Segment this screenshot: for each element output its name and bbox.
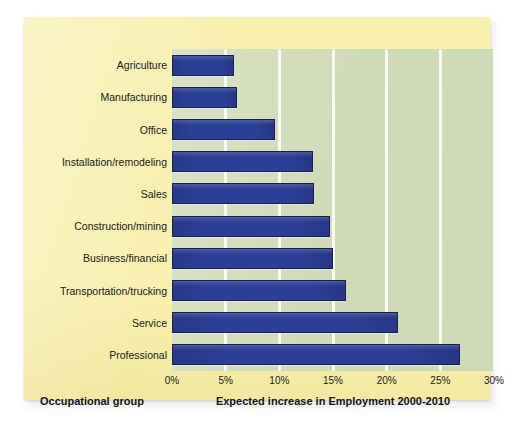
x-axis-title: Expected increase in Employment 2000-201…	[172, 395, 494, 407]
axis-titles-row: Occupational group Expected increase in …	[24, 395, 490, 417]
x-axis-tick-labels: 0%5%10%15%20%25%30%	[172, 375, 494, 389]
bar-row	[172, 242, 494, 274]
bar-row	[172, 178, 494, 210]
x-axis-tick-label: 5%	[218, 375, 232, 386]
bar-row	[172, 49, 494, 81]
bar-row	[172, 81, 494, 113]
y-axis-category-label: Office	[27, 125, 167, 136]
y-axis-category-label: Agriculture	[27, 60, 167, 71]
y-axis-category-labels: AgricultureManufacturingOfficeInstallati…	[24, 49, 167, 371]
y-axis-title: Occupational group	[40, 395, 144, 407]
y-axis-category-label: Business/financial	[27, 253, 167, 264]
y-axis-category-label: Transportation/trucking	[27, 286, 167, 297]
bar	[172, 151, 313, 172]
y-axis-category-label: Sales	[27, 189, 167, 200]
x-axis-tick-label: 25%	[430, 375, 450, 386]
bar-row	[172, 210, 494, 242]
x-axis-tick-label: 0%	[165, 375, 179, 386]
y-axis-category-label: Professional	[27, 350, 167, 361]
bar	[172, 183, 314, 204]
x-axis-tick-label: 10%	[269, 375, 289, 386]
y-axis-category-label: Service	[27, 318, 167, 329]
bar-row	[172, 113, 494, 145]
y-axis-category-label: Installation/remodeling	[27, 157, 167, 168]
scanned-page-surface: AgricultureManufacturingOfficeInstallati…	[0, 0, 516, 426]
x-axis-tick-label: 30%	[484, 375, 504, 386]
x-axis-tick-label: 15%	[323, 375, 343, 386]
bar	[172, 55, 234, 76]
bar	[172, 87, 237, 108]
plot-area	[172, 49, 494, 371]
bar	[172, 216, 330, 237]
y-axis-category-label: Manufacturing	[27, 92, 167, 103]
bar	[172, 344, 460, 365]
bar	[172, 119, 275, 140]
bar	[172, 312, 398, 333]
bar-row	[172, 307, 494, 339]
bar-row	[172, 146, 494, 178]
bar-row	[172, 339, 494, 371]
x-axis-tick-label: 20%	[377, 375, 397, 386]
bar	[172, 248, 333, 269]
y-axis-category-label: Construction/mining	[27, 221, 167, 232]
bar-row	[172, 274, 494, 306]
chart-card: AgricultureManufacturingOfficeInstallati…	[24, 17, 490, 400]
bar	[172, 280, 346, 301]
